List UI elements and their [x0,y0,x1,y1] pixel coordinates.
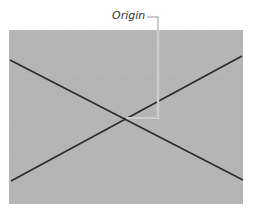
origin-label: Origin [112,9,145,22]
viewport-diagram [0,0,253,212]
